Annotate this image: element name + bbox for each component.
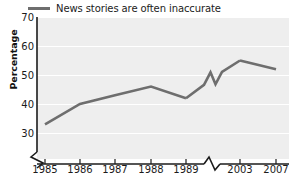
series-line-break-marker [186,61,240,99]
x-tick-label: 2007 [256,164,295,175]
x-axis-tick-labels: 1985 1986 1987 1988 1989 2003 2007 [0,164,295,182]
plot-area [37,17,289,159]
x-tick-label: 2003 [220,164,260,175]
x-tick-label: 1985 [25,164,65,175]
series-line-right [240,61,276,70]
y-tick-label: 50 [12,71,34,81]
y-axis-tick-labels: 70 60 50 40 30 [10,0,34,185]
line-chart: News stories are often inaccurate Percen… [0,0,295,185]
x-tick-label: 1988 [131,164,171,175]
y-tick-label: 70 [12,13,34,23]
chart-legend: News stories are often inaccurate [28,1,221,16]
y-tick-label: 30 [12,129,34,139]
legend-label: News stories are often inaccurate [56,3,221,14]
x-tick-label: 1989 [166,164,206,175]
series-line-left [45,87,186,125]
y-tick-label: 40 [12,100,34,110]
x-tick-label: 1987 [95,164,135,175]
series-news-stories-are-often-inaccurate [37,17,289,159]
y-tick-label: 60 [12,42,34,52]
x-tick-label: 1986 [60,164,100,175]
